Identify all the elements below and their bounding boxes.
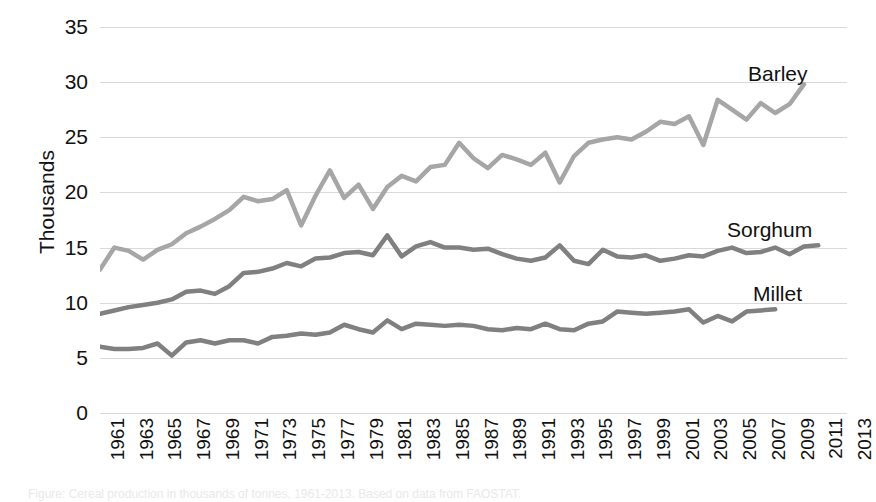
x-tick-label: 1995 [595, 418, 617, 460]
series-label-barley: Barley [748, 62, 808, 86]
x-tick-label: 1973 [279, 418, 301, 460]
x-tick-label: 1985 [452, 418, 474, 460]
x-tick-label: 1961 [107, 418, 129, 460]
x-tick-label: 1989 [509, 418, 531, 460]
gridline [100, 413, 847, 414]
series-label-sorghum: Sorghum [727, 218, 812, 242]
figure-caption: Figure: Cereal production in thousands o… [28, 487, 843, 502]
series-label-millet: Millet [753, 282, 802, 306]
x-tick-label: 2007 [768, 418, 790, 460]
x-tick-label: 1981 [394, 418, 416, 460]
x-tick-label: 2001 [682, 418, 704, 460]
x-tick-label: 1975 [308, 418, 330, 460]
y-tick-label: 25 [0, 125, 88, 149]
y-tick-label: 30 [0, 70, 88, 94]
x-tick-label: 2005 [739, 418, 761, 460]
x-tick-label: 1999 [653, 418, 675, 460]
x-tick-label: 2013 [854, 418, 876, 460]
y-tick-label: 0 [0, 401, 88, 425]
x-tick-label: 1965 [164, 418, 186, 460]
x-tick-label: 1977 [337, 418, 359, 460]
x-tick-label: 1993 [567, 418, 589, 460]
series-line-millet [100, 309, 775, 355]
x-tick-label: 2011 [825, 418, 847, 459]
x-tick-label: 2009 [797, 418, 819, 460]
x-tick-label: 1969 [222, 418, 244, 460]
y-axis-tick-labels: 05101520253035 [0, 27, 88, 413]
x-tick-label: 2003 [710, 418, 732, 460]
x-tick-label: 1991 [538, 418, 560, 460]
x-tick-label: 1987 [481, 418, 503, 460]
x-tick-label: 1967 [193, 418, 215, 460]
x-tick-label: 1979 [366, 418, 388, 460]
y-tick-label: 5 [0, 346, 88, 370]
x-tick-label: 1963 [136, 418, 158, 460]
x-tick-label: 1983 [423, 418, 445, 460]
series-line-sorghum [100, 235, 818, 313]
y-tick-label: 35 [0, 15, 88, 39]
series-line-barley [100, 84, 804, 269]
x-tick-label: 1971 [251, 418, 273, 460]
y-tick-label: 20 [0, 180, 88, 204]
x-tick-label: 1997 [624, 418, 646, 460]
y-tick-label: 10 [0, 291, 88, 315]
x-axis-tick-labels: 1961196319651967196919711973197519771979… [100, 418, 847, 480]
y-tick-label: 15 [0, 236, 88, 260]
